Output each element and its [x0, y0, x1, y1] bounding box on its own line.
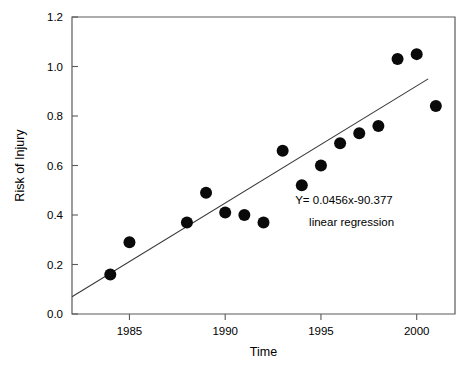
data-point	[238, 209, 250, 221]
data-point	[181, 216, 193, 228]
data-point	[392, 53, 404, 65]
data-point	[277, 145, 289, 157]
data-point	[123, 236, 135, 248]
annotation-text: Y= 0.0456x-90.377	[295, 194, 393, 206]
x-tick-label: 1995	[308, 325, 334, 337]
data-point	[258, 216, 270, 228]
x-axis-title: Time	[250, 345, 277, 359]
data-point	[296, 179, 308, 191]
data-point	[353, 127, 365, 139]
x-tick-label: 2000	[404, 325, 430, 337]
scatter-plot: 0.00.20.40.60.81.01.2 1985199019952000 Y…	[0, 0, 471, 367]
y-tick-label: 0.0	[47, 308, 63, 320]
y-tick-label: 0.8	[47, 110, 63, 122]
data-point	[104, 268, 116, 280]
y-tick-label: 0.2	[47, 259, 63, 271]
data-point	[372, 120, 384, 132]
data-point	[200, 187, 212, 199]
x-tick-label: 1990	[212, 325, 238, 337]
annotation-text: linear regression	[309, 216, 394, 228]
y-tick-label: 1.2	[47, 11, 63, 23]
chart-figure: 0.00.20.40.60.81.01.2 1985199019952000 Y…	[0, 0, 471, 367]
x-tick-label: 1985	[117, 325, 143, 337]
data-point	[315, 160, 327, 172]
data-point	[411, 48, 423, 60]
data-point	[334, 137, 346, 149]
data-point	[219, 207, 231, 219]
y-axis-title: Risk of Injury	[13, 129, 27, 202]
data-point	[430, 100, 442, 112]
y-tick-label: 1.0	[47, 61, 63, 73]
y-tick-label: 0.6	[47, 160, 63, 172]
y-tick-label: 0.4	[47, 209, 64, 221]
